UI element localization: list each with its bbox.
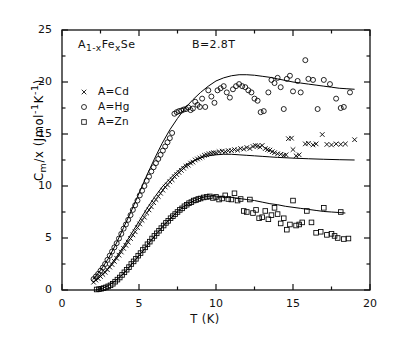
field-annotation: B=2.8T [192,38,235,51]
x-tick-label: 0 [42,297,82,310]
x-tick-label: 20 [350,297,390,310]
y-axis-label: Cm/x (Jmol-1K-1) [28,30,48,230]
legend-label-hg: A=Hg [98,100,130,112]
x-tick-label: 15 [273,297,313,310]
x-axis-label: T (K) [190,312,220,326]
figure-panel: 0510152025 05101520 Cm/x (Jmol-1K-1) T (… [0,0,410,337]
series-hg [91,58,352,282]
axis-ticks [62,30,370,290]
axes-frame [62,30,370,290]
fit-curve-hg [93,75,355,280]
x-tick-label: 5 [119,297,159,310]
legend-label-cd: A=Cd [98,85,129,97]
data-points [91,58,357,292]
y-tick-label: 0 [0,283,52,296]
legend-markers [82,90,87,125]
composition-annotation: A1-xFexSe [78,38,135,53]
fit-curve-zn [96,196,345,290]
y-tick-label: 5 [0,231,52,244]
x-tick-label: 10 [196,297,236,310]
fit-curves [93,75,355,290]
legend-label-zn: A=Zn [98,115,129,127]
